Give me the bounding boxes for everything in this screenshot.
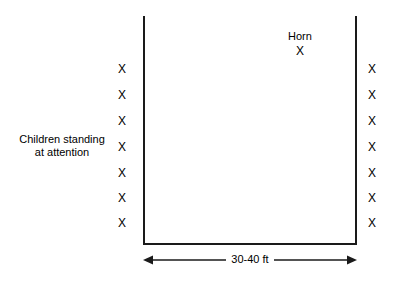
child-marker-left-2: X [116, 89, 128, 101]
child-marker-left-6: X [116, 192, 128, 204]
dimension-line: 30-40 ft [143, 252, 357, 268]
child-marker-left-4: X [116, 141, 128, 153]
dimension-label: 30-40 ft [226, 253, 273, 265]
child-marker-left-5: X [116, 167, 128, 179]
horn-label: Horn [288, 30, 312, 42]
enclosure-bottom-wall [143, 243, 357, 245]
child-marker-left-7: X [116, 217, 128, 229]
enclosure-left-wall [143, 16, 145, 245]
enclosure-right-wall [355, 16, 357, 245]
children-label-line-1: Children standing [8, 133, 116, 146]
child-marker-left-1: X [116, 63, 128, 75]
child-marker-right-4: X [366, 141, 378, 153]
diagram-canvas: Horn X Children standing at attention X … [0, 0, 399, 281]
child-marker-left-3: X [116, 115, 128, 127]
dimension-label-wrap: 30-40 ft [143, 252, 357, 267]
child-marker-right-2: X [366, 89, 378, 101]
child-marker-right-7: X [366, 217, 378, 229]
child-marker-right-5: X [366, 167, 378, 179]
horn-marker: X [294, 45, 306, 57]
children-label-line-2: at attention [8, 146, 116, 159]
child-marker-right-6: X [366, 192, 378, 204]
children-label: Children standing at attention [8, 133, 116, 159]
child-marker-right-3: X [366, 115, 378, 127]
child-marker-right-1: X [366, 63, 378, 75]
